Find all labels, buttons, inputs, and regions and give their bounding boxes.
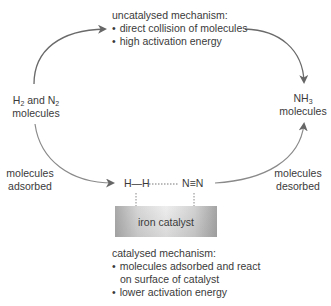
catalysed-block: catalysed mechanism: molecules adsorbed …	[112, 247, 260, 299]
desorbed-label: molecules desorbed	[268, 167, 328, 193]
catalyst-label: iron catalyst	[138, 216, 194, 228]
arrow-uncatalysed-in	[34, 29, 105, 84]
nitrogen-molecule: N≡N	[182, 177, 203, 190]
products-label: NH3 molecules	[275, 92, 331, 118]
uncatalysed-block: uncatalysed mechanism: direct collision …	[112, 9, 248, 48]
adsorbed-label: molecules adsorbed	[2, 167, 58, 193]
uncatalysed-bullet-2: high activation energy	[112, 35, 248, 48]
uncatalysed-bullet-1: direct collision of molecules	[112, 22, 248, 35]
reactants-label: H2 and N2 molecules	[5, 94, 67, 120]
catalysed-heading: catalysed mechanism:	[112, 247, 260, 260]
iron-catalyst-surface: iron catalyst	[115, 206, 217, 237]
catalysed-bullet-2: lower activation energy	[112, 286, 260, 299]
hydrogen-molecule: H—H	[124, 177, 150, 190]
catalysed-bullet-1: molecules adsorbed and react	[112, 260, 260, 273]
uncatalysed-heading: uncatalysed mechanism:	[112, 9, 248, 22]
arrow-uncatalysed-out	[245, 29, 304, 82]
catalysed-bullet-1-continuation: on surface of catalyst	[112, 273, 260, 286]
